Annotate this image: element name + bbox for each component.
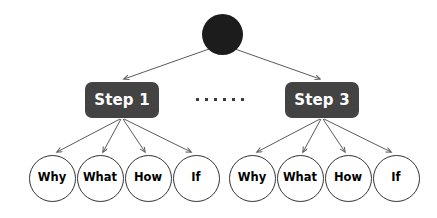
ellipsis-dot	[196, 98, 199, 101]
leaf-node-label: How	[334, 172, 362, 184]
leaf-node-step-1-if[interactable]: If	[173, 155, 220, 202]
ellipsis-dot	[214, 98, 217, 101]
leaf-node-label: If	[191, 172, 200, 184]
diagram-canvas: Step 1 Step 3 Why What How If Why What H…	[0, 0, 437, 218]
step-box-step-3[interactable]: Step 3	[285, 82, 359, 118]
step-box-label: Step 3	[294, 93, 350, 108]
leaf-node-label: What	[83, 172, 117, 184]
leaf-node-step-3-what[interactable]: What	[277, 155, 324, 202]
leaf-node-label: Why	[238, 172, 266, 184]
ellipsis-dot	[232, 98, 235, 101]
leaf-node-label: If	[391, 172, 400, 184]
root-node[interactable]	[202, 14, 243, 55]
leaf-node-step-1-what[interactable]: What	[77, 155, 124, 202]
leaf-node-step-3-if[interactable]: If	[373, 155, 420, 202]
node-layer: Step 1 Step 3 Why What How If Why What H…	[0, 0, 437, 218]
step-box-label: Step 1	[94, 93, 150, 108]
ellipsis-dot	[205, 98, 208, 101]
ellipsis-separator	[196, 98, 244, 101]
leaf-node-step-3-how[interactable]: How	[325, 155, 372, 202]
ellipsis-dot	[241, 98, 244, 101]
ellipsis-dot	[223, 98, 226, 101]
leaf-node-step-1-why[interactable]: Why	[29, 155, 76, 202]
leaf-node-label: How	[134, 172, 162, 184]
step-box-step-1[interactable]: Step 1	[85, 82, 159, 118]
leaf-node-label: What	[283, 172, 317, 184]
leaf-node-step-1-how[interactable]: How	[125, 155, 172, 202]
leaf-node-step-3-why[interactable]: Why	[229, 155, 276, 202]
leaf-node-label: Why	[38, 172, 66, 184]
